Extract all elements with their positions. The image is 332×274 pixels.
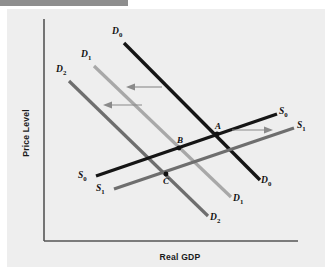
curve-label-s1-right: S1 [297,121,306,133]
curve-d2 [69,81,208,216]
x-axis-label: Real GDP [120,252,240,262]
point-label-a: A [215,122,221,131]
curve-label-d0-top: D0 [112,27,122,39]
curve-s0 [96,114,277,176]
point-label-b: B [177,136,183,145]
equilibrium-dot-a [215,132,220,137]
curve-label-d1-bottom: D1 [233,194,243,206]
curve-label-s0-left: S0 [78,171,87,183]
figure-page: D0 D1 D2 D0 D1 D2 S0 S1 S0 S1 A B C Pric… [0,0,332,274]
equilibrium-dot-b [177,146,182,151]
curve-label-d1-top: D1 [81,50,91,62]
demand-shift-arrow-upper [126,83,162,90]
point-label-c: C [163,177,169,186]
y-axis-label: Price Level [21,98,31,168]
curve-label-s1-left: S1 [96,184,105,196]
curve-label-d2-top: D2 [56,65,66,77]
curve-label-d2-bottom: D2 [210,213,220,225]
curve-label-s0-right: S0 [279,107,288,119]
curve-label-d0-bottom: D0 [261,176,271,188]
supply-demand-plot [0,0,332,274]
